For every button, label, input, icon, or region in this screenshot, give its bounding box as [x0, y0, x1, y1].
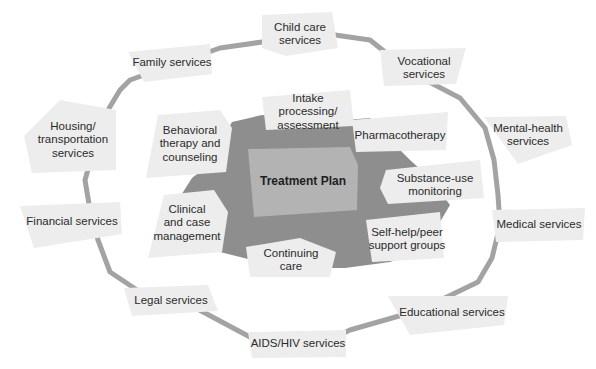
medical-label: Medical services — [494, 212, 584, 238]
financial-label: Financial services — [22, 208, 122, 236]
educational-label: Educational services — [396, 300, 508, 326]
clinical-label: Clinical and case management — [150, 198, 224, 248]
behavioral-label: Behavioral therapy and counseling — [152, 118, 228, 170]
vocational-label: Vocational services — [384, 51, 464, 85]
child-care-label: Child care services — [264, 17, 336, 51]
treatment-plan-label: Treatment Plan — [250, 168, 356, 196]
mental-health-label: Mental-health services — [488, 118, 568, 152]
pharmacotherapy-label: Pharmacotherapy — [352, 122, 448, 150]
self-help-label: Self-help/peer support groups — [368, 222, 446, 256]
housing-label: Housing/ transportation services — [30, 114, 116, 166]
continuing-care-label: Continuing care — [248, 244, 334, 276]
legal-label: Legal services — [126, 288, 216, 314]
intake-label: Intake processing/ assessment — [262, 93, 354, 131]
family-label: Family services — [132, 50, 212, 76]
aids-hiv-label: AIDS/HIV services — [250, 332, 346, 356]
substance-use-label: Substance-use monitoring — [385, 168, 485, 202]
